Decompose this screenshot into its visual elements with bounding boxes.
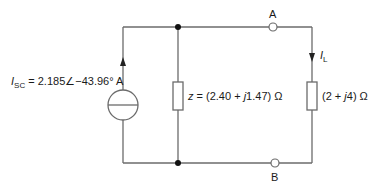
z-value-imag: 1.47) Ω bbox=[246, 90, 282, 102]
load-resistor-icon bbox=[307, 82, 317, 110]
load-current-arrow-icon bbox=[309, 53, 315, 62]
terminal-a-label: A bbox=[269, 9, 276, 20]
junction-bottom-dot bbox=[175, 160, 181, 166]
source-arrow-icon bbox=[120, 57, 126, 66]
z-resistor-icon bbox=[173, 82, 183, 110]
terminal-a-icon bbox=[269, 23, 277, 31]
internal-impedance-label: z = (2.40 + j1.47) Ω bbox=[188, 91, 282, 102]
source-angle: −43.96° A bbox=[75, 75, 123, 87]
load-current-label: IL bbox=[320, 50, 328, 64]
current-source-icon bbox=[108, 90, 138, 120]
terminal-b-label: B bbox=[271, 172, 278, 183]
load-value-pre: (2 + bbox=[322, 90, 344, 102]
source-current-label: ISC = 2.185∠−43.96° A bbox=[11, 76, 123, 90]
load-current-subscript: L bbox=[323, 55, 327, 64]
terminal-b-icon bbox=[271, 159, 279, 167]
source-magnitude: = 2.185 bbox=[25, 75, 65, 87]
source-subscript: SC bbox=[14, 81, 25, 90]
angle-icon: ∠ bbox=[65, 75, 75, 87]
circuit-diagram: ISC = 2.185∠−43.96° A z = (2.40 + j1.47)… bbox=[0, 0, 380, 188]
z-value-real: = (2.40 + bbox=[194, 90, 244, 102]
load-value-post: 4) Ω bbox=[347, 90, 368, 102]
load-impedance-label: (2 + j4) Ω bbox=[322, 91, 368, 102]
junction-top-dot bbox=[175, 24, 181, 30]
